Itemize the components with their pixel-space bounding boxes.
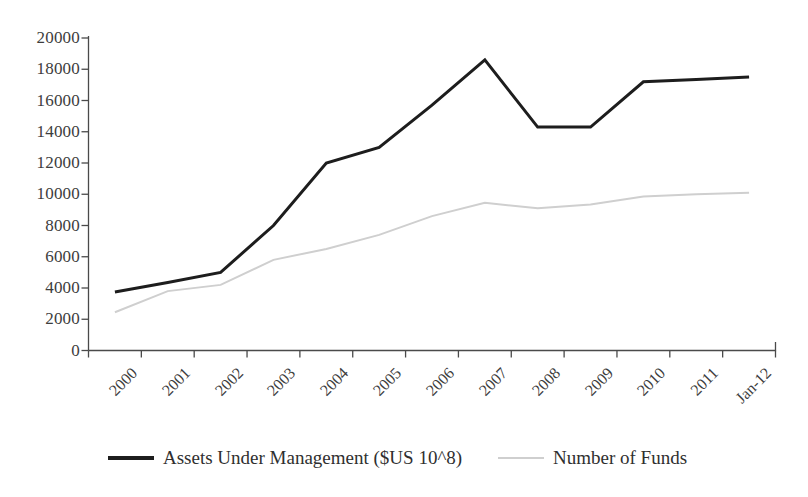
legend-label: Number of Funds (553, 448, 687, 468)
legend-label: Assets Under Management ($US 10^8) (163, 448, 462, 468)
line-chart: 0200040006000800010000120001400016000180… (0, 0, 808, 497)
legend-item[interactable]: Number of Funds (498, 444, 687, 472)
x-axis-tick-labels: 2000200120022003200420052006200720082009… (0, 0, 808, 497)
legend-swatch-icon (108, 456, 154, 460)
chart-legend: Assets Under Management ($US 10^8)Number… (0, 440, 808, 480)
legend-swatch-icon (498, 457, 544, 459)
legend-item[interactable]: Assets Under Management ($US 10^8) (108, 444, 462, 472)
